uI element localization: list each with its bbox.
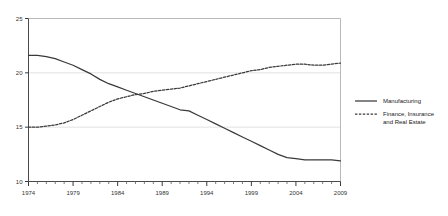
x-tick-label-2004: 2004 — [289, 190, 303, 196]
x-tick-label-1994: 1994 — [200, 190, 214, 196]
x-tick-label-2009: 2009 — [334, 190, 348, 196]
legend-label-finance-insurance-real-estate: Finance, Insurance — [383, 111, 435, 117]
y-tick-label-20: 20 — [16, 70, 23, 76]
x-tick-label-1984: 1984 — [111, 190, 125, 196]
x-tick-label-1999: 1999 — [245, 190, 259, 196]
legend-label-manufacturing: Manufacturing — [383, 98, 421, 104]
y-tick-label-15: 15 — [16, 124, 23, 130]
y-tick-label-25: 25 — [16, 16, 23, 22]
x-tick-label-1974: 1974 — [22, 190, 36, 196]
legend-label-finance-insurance-real-estate-line2: and Real Estate — [383, 119, 426, 125]
chart-container: 10152025 1974197919841989199419992004200… — [0, 0, 448, 216]
y-tick-label-10: 10 — [16, 179, 23, 185]
x-tick-label-1979: 1979 — [66, 190, 80, 196]
x-tick-label-1989: 1989 — [156, 190, 170, 196]
line-chart: 10152025 1974197919841989199419992004200… — [0, 0, 448, 216]
chart-background — [0, 0, 448, 216]
